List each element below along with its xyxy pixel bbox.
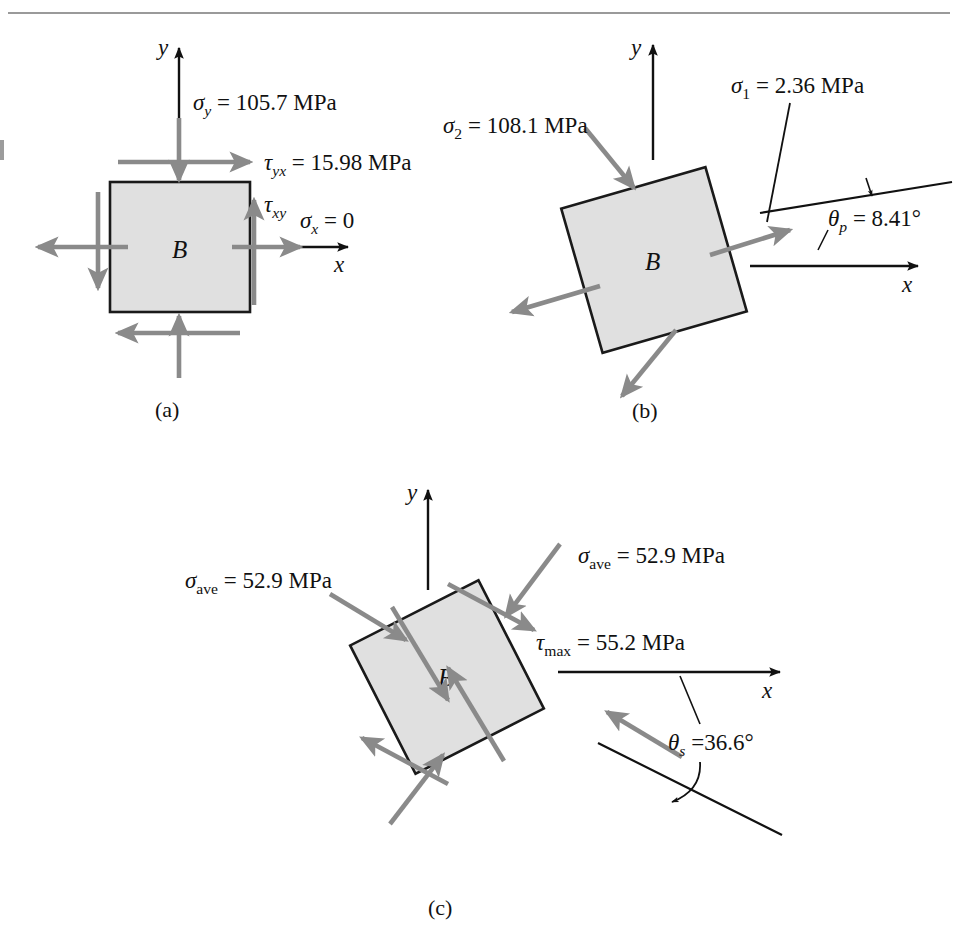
panel-c-x-axis-label: x [761, 678, 773, 703]
panel-b-x-axis-label: x [901, 272, 913, 297]
panel-a-body-label: B [172, 236, 187, 263]
panel-a-sigma-x-label: σx = 0 [300, 208, 354, 237]
panel-a-y-axis-label: y [156, 35, 169, 60]
stress-element-figure: y x B σy = 105.7 MPa τyx = 15.98 MPa τxy [0, 0, 958, 928]
figure-background [0, 0, 958, 928]
panel-b-sigma-1-label: σ1 = 2.36 MPa [731, 73, 864, 102]
page-edge-artifact [0, 140, 4, 160]
panel-a-sigma-y-label: σy = 105.7 MPa [193, 90, 337, 119]
panel-b-body-label: B [645, 248, 660, 275]
panel-a-tau-yx-label: τyx = 15.98 MPa [264, 150, 412, 179]
panel-a-x-axis-label: x [333, 252, 345, 277]
panel-c-y-axis-label: y [405, 480, 418, 505]
panel-b-sigma-2-label: σ2 = 108.1 MPa [443, 113, 588, 142]
panel-c-caption: (c) [428, 895, 452, 920]
panel-a-caption: (a) [155, 397, 179, 422]
panel-b-y-axis-label: y [629, 35, 642, 60]
panel-b-caption: (b) [632, 398, 658, 423]
